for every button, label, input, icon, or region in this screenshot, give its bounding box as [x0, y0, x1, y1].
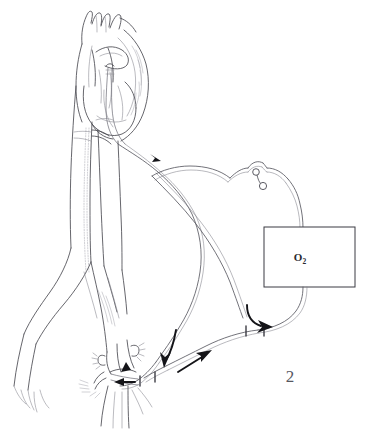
aortic-cannula — [106, 64, 125, 144]
iliac-bifurcation — [14, 248, 127, 412]
tubing-clamp-assembly[interactable] — [248, 162, 267, 190]
heart-with-aortic-arch — [76, 30, 148, 141]
figure-number: 2 — [286, 367, 295, 386]
oxygenator-outlet-tube — [144, 287, 307, 382]
oxygenator-box[interactable] — [264, 227, 355, 287]
clamp-ring-lower[interactable] — [259, 182, 266, 189]
flow-arrow-femoral-inner — [114, 362, 135, 386]
femoral-cannulation-site — [79, 340, 152, 428]
clamp-ring-upper[interactable] — [253, 169, 260, 176]
ecmo-circuit-illustration: O2 — [0, 0, 365, 438]
descending-aorta — [70, 86, 92, 262]
flow-arrow-femoral-return — [178, 350, 212, 372]
oxygenator-label-sub: 2 — [302, 257, 306, 266]
flow-arrow-oxygenator-outlet — [247, 305, 273, 333]
flow-arrow-upper-aortic — [150, 154, 161, 162]
figure-container: O2 — [0, 0, 365, 438]
brachiocephalic-branch-vessels — [82, 11, 136, 44]
oxygenator-unit[interactable]: O2 — [264, 227, 355, 287]
